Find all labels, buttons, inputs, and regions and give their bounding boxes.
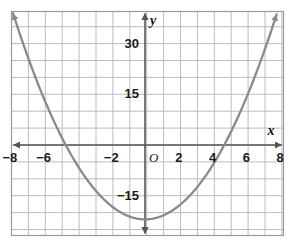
x-axis-label: x [268, 124, 275, 138]
graph-canvas [0, 0, 295, 246]
y-tick-label-neg15: −15 [117, 189, 139, 202]
x-tick-label-4: 4 [209, 151, 216, 164]
coordinate-graph-figure: −8 −6 −2 2 4 6 8 30 15 −15 O x y [0, 0, 295, 246]
x-tick-label-6: 6 [243, 151, 250, 164]
x-tick-label-neg8: −8 [2, 151, 17, 164]
x-tick-label-8: 8 [277, 151, 284, 164]
x-tick-label-neg2: −2 [104, 151, 119, 164]
origin-label: O [149, 151, 158, 164]
y-axis-label: y [150, 14, 156, 28]
plot-background [12, 12, 284, 236]
y-tick-label-30: 30 [125, 37, 139, 50]
x-tick-label-2: 2 [175, 151, 182, 164]
x-tick-label-neg6: −6 [36, 151, 51, 164]
y-tick-label-15: 15 [125, 87, 139, 100]
